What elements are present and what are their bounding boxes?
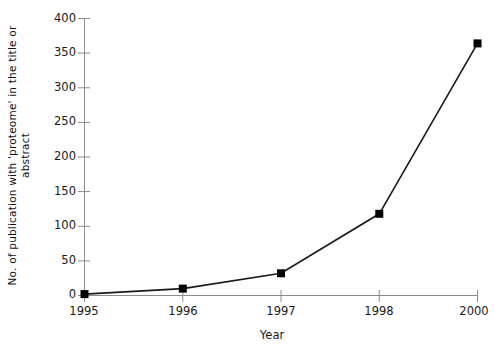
data-point-1997: [277, 269, 285, 277]
data-line-series-1: [85, 43, 478, 294]
x-tick-label-1998: 1998: [349, 306, 409, 317]
data-point-2000: [474, 39, 482, 47]
x-tick-label-1996: 1996: [153, 306, 213, 317]
x-tick-label-1997: 1997: [251, 306, 311, 317]
data-point-1998: [375, 210, 383, 218]
x-tick-label-1995: 1995: [54, 306, 114, 317]
data-point-markers: [81, 39, 482, 298]
data-point-1996: [179, 285, 187, 293]
chart-figure: No. of publication with 'proteome' in th…: [0, 0, 494, 350]
x-axis-title: Year: [212, 328, 332, 342]
data-point-1995: [81, 290, 89, 298]
plot-area: [0, 0, 494, 350]
x-tick-label-2000: 2000: [444, 306, 494, 317]
